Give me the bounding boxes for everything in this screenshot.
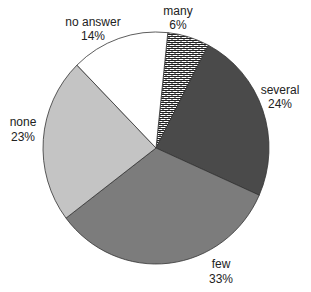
label-several-pct: 24% xyxy=(268,97,292,111)
label-several-name: several xyxy=(261,83,300,97)
pie-chart: many 6% several 24% few 33% none 23% no … xyxy=(0,0,311,292)
pie-slices xyxy=(43,32,269,264)
label-few-pct: 33% xyxy=(209,272,233,286)
label-few-name: few xyxy=(212,257,231,271)
label-no-answer-pct: 14% xyxy=(81,29,105,43)
label-no-answer-name: no answer xyxy=(65,15,120,29)
label-many-pct: 6% xyxy=(169,18,187,32)
label-none-pct: 23% xyxy=(11,130,35,144)
label-none-name: none xyxy=(10,115,37,129)
label-many-name: many xyxy=(163,4,192,18)
